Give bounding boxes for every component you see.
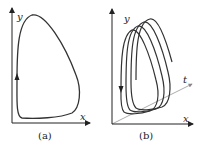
y-label-a: y (16, 11, 23, 22)
panel-b: y x t (b) (112, 9, 193, 141)
spiral-trajectory (121, 19, 172, 114)
direction-arrow-b (119, 86, 124, 93)
caption-b: (b) (139, 130, 153, 141)
x-label-a: x (80, 111, 86, 122)
figure: y x (a) y x t (b) (0, 0, 202, 147)
panel-a: y x (a) (12, 8, 90, 141)
limit-cycle-curve (17, 15, 80, 119)
caption-a: (a) (38, 130, 52, 141)
direction-arrow-a (15, 73, 20, 80)
t-axis-b (112, 84, 192, 124)
y-label-b: y (123, 13, 130, 24)
t-label-b: t (183, 74, 188, 85)
x-label-b: x (183, 113, 189, 124)
